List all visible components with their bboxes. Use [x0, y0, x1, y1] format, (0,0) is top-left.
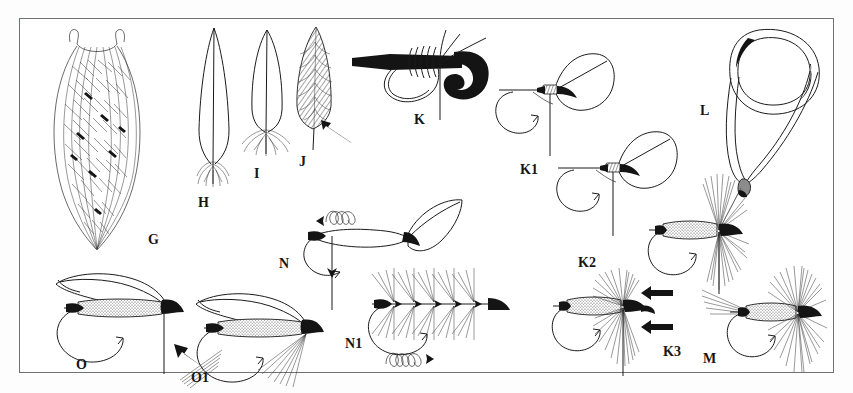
caption-O: O	[76, 358, 87, 372]
caption-K: K	[414, 113, 425, 127]
figure-N1-palmered-hackle	[358, 272, 533, 387]
caption-N: N	[279, 257, 289, 271]
figure-K3-hackled-wet-fly	[545, 272, 695, 382]
caption-G: G	[148, 233, 159, 247]
figure-H-stripped-quill-feather	[186, 24, 244, 189]
figure-O1-winged-wet-fly-with-beard	[190, 288, 365, 393]
caption-I: I	[254, 167, 260, 181]
caption-K1: K1	[520, 163, 538, 177]
figure-L-thread-loop-lasso	[712, 24, 832, 189]
illustration-plate: G H	[0, 0, 853, 393]
caption-L: L	[700, 104, 710, 118]
caption-K2: K2	[578, 256, 596, 270]
figure-K-thread-loop-on-shank	[350, 28, 495, 123]
caption-O1: O1	[191, 371, 209, 385]
figure-M-finished-dry-fly	[700, 272, 835, 387]
caption-K3: K3	[663, 345, 681, 359]
figure-G-feather-barb-bundle	[32, 22, 162, 252]
figure-J-shaded-feather-with-arrow	[286, 24, 356, 154]
caption-H: H	[198, 196, 209, 210]
caption-M: M	[703, 352, 716, 366]
caption-J: J	[299, 155, 306, 169]
